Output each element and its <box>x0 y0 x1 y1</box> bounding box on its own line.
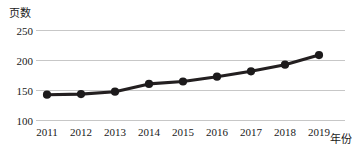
data-point-2012 <box>77 90 85 98</box>
data-point-2015 <box>179 77 187 85</box>
x-axis-title: 年份 <box>330 130 352 146</box>
data-point-2013 <box>111 88 119 96</box>
data-point-2017 <box>247 67 255 75</box>
data-point-2014 <box>145 80 153 88</box>
series-markers <box>43 51 323 99</box>
data-point-2016 <box>213 73 221 81</box>
line-chart: 页数 250 200 150 100 2011 2012 2013 2014 2… <box>0 0 361 154</box>
series-line-page-count <box>47 55 319 95</box>
data-point-2018 <box>281 61 289 69</box>
data-point-2011 <box>43 91 51 99</box>
data-point-2019 <box>315 51 323 59</box>
